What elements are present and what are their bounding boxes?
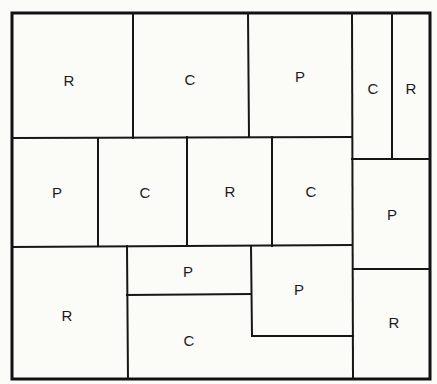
divider-c-p — [248, 13, 249, 137]
region-label: R — [406, 80, 417, 97]
region-label: P — [294, 281, 304, 298]
region-label: C — [368, 80, 379, 97]
region-label: C — [185, 71, 196, 88]
region-label: R — [62, 307, 73, 324]
divider-p-c-bottom — [127, 294, 251, 295]
region-label: R — [225, 183, 236, 200]
row1-bottom-divider — [12, 137, 352, 138]
region-label: P — [52, 184, 62, 201]
region-label: P — [295, 68, 305, 85]
partition-diagram: R C P C R P C R C P R P C P R — [0, 0, 437, 384]
region-label: R — [64, 72, 75, 89]
region-label: C — [140, 184, 151, 201]
region-label: C — [306, 183, 317, 200]
divider-r-bottom-left — [127, 246, 128, 379]
right-column-divider — [352, 13, 353, 379]
region-label: P — [183, 263, 193, 280]
region-label: P — [387, 206, 397, 223]
divider-l-shape-vertical — [251, 246, 252, 336]
region-label: C — [184, 332, 195, 349]
outer-frame — [12, 13, 430, 379]
region-label: R — [389, 314, 400, 331]
